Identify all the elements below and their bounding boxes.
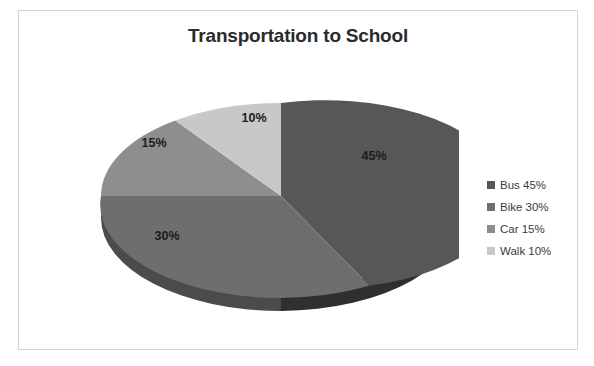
legend-label: Car 15% xyxy=(500,223,545,235)
pie-top-face xyxy=(100,100,459,298)
chart-frame: Transportation to School xyxy=(18,10,578,350)
chart-title: Transportation to School xyxy=(19,25,577,47)
legend-item-bus[interactable]: Bus 45% xyxy=(487,174,587,196)
legend-swatch-icon xyxy=(487,203,495,211)
pie-label-bus: 45% xyxy=(361,149,386,163)
legend-item-bike[interactable]: Bike 30% xyxy=(487,196,587,218)
chart-legend: Bus 45% Bike 30% Car 15% Walk 10% xyxy=(487,174,587,262)
legend-swatch-icon xyxy=(487,247,495,255)
pie-label-walk: 10% xyxy=(241,111,266,125)
legend-item-walk[interactable]: Walk 10% xyxy=(487,240,587,262)
pie-chart-plot-area: 45% 30% 15% 10% xyxy=(59,81,459,321)
legend-swatch-icon xyxy=(487,181,495,189)
legend-swatch-icon xyxy=(487,225,495,233)
pie-label-car: 15% xyxy=(141,136,166,150)
legend-item-car[interactable]: Car 15% xyxy=(487,218,587,240)
legend-label: Walk 10% xyxy=(500,245,551,257)
legend-label: Bike 30% xyxy=(500,201,549,213)
pie-label-bike: 30% xyxy=(154,229,179,243)
legend-label: Bus 45% xyxy=(500,179,546,191)
